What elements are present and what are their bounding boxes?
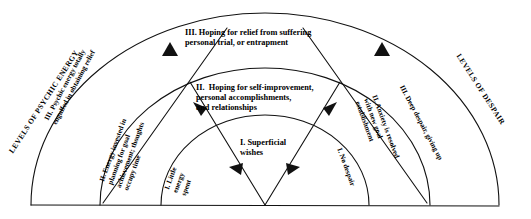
arrow-core-left (229, 163, 243, 175)
arrow-band2-right (323, 102, 337, 116)
arrow-core-right (286, 163, 300, 175)
label-center-level2: II. Hoping for self-improvement, persona… (196, 83, 314, 113)
diagram-canvas: III. Hoping for relief from suffering pe… (0, 0, 531, 219)
label-center-level3: III. Hoping for relief from suffering pe… (185, 28, 311, 48)
arrow-band3-left (162, 42, 178, 56)
label-center-level1: I. Superficial wishes (240, 138, 286, 158)
arrow-band3-right (374, 42, 390, 56)
